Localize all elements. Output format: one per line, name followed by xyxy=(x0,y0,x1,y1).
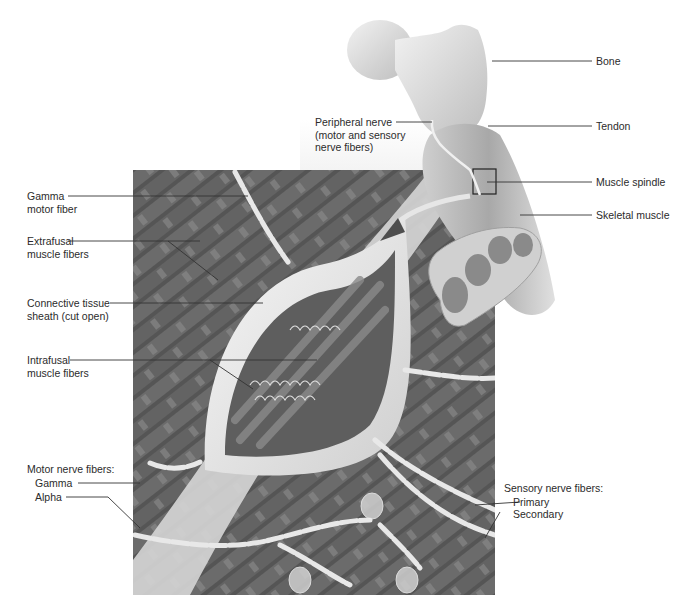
label-skeletal-muscle: Skeletal muscle xyxy=(596,209,670,222)
muscle-spindle-diagram: Bone Tendon Muscle spindle Skeletal musc… xyxy=(0,0,687,616)
label-motor-alpha: Alpha xyxy=(35,491,62,504)
label-intrafusal-fibers: Intrafusal muscle fibers xyxy=(27,354,89,379)
label-tendon: Tendon xyxy=(596,120,630,133)
label-motor-gamma: Gamma xyxy=(35,477,72,490)
label-extrafusal-fibers: Extrafusal muscle fibers xyxy=(27,235,89,260)
label-gamma-motor-fiber: Gamma motor fiber xyxy=(27,190,77,215)
label-bone: Bone xyxy=(596,55,621,68)
extrafusal-fibers-panel xyxy=(133,170,495,595)
label-sensory-primary: Primary xyxy=(513,496,549,509)
label-sensory-secondary: Secondary xyxy=(513,508,563,521)
label-sensory-nerve-fibers: Sensory nerve fibers: xyxy=(504,482,603,495)
label-connective-sheath: Connective tissue sheath (cut open) xyxy=(27,297,110,322)
label-peripheral-nerve: Peripheral nerve (motor and sensory nerv… xyxy=(315,116,405,154)
label-muscle-spindle: Muscle spindle xyxy=(596,176,665,189)
label-motor-nerve-fibers: Motor nerve fibers: xyxy=(27,463,115,476)
